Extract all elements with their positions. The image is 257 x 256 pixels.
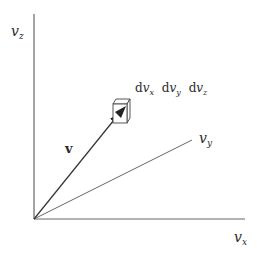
vy-axis-label: vy — [199, 130, 213, 148]
vz-axis-label: vz — [11, 23, 24, 41]
vy-axis — [34, 140, 192, 219]
velocity-vector-arrow — [34, 115, 118, 219]
velocity-space-diagram: vz vx vy v dvx dvy dvz — [0, 0, 257, 256]
vx-axis-label: vx — [234, 229, 247, 247]
volume-element-label: dvx dvy dvz — [135, 81, 208, 98]
velocity-vector-label: v — [64, 141, 73, 156]
